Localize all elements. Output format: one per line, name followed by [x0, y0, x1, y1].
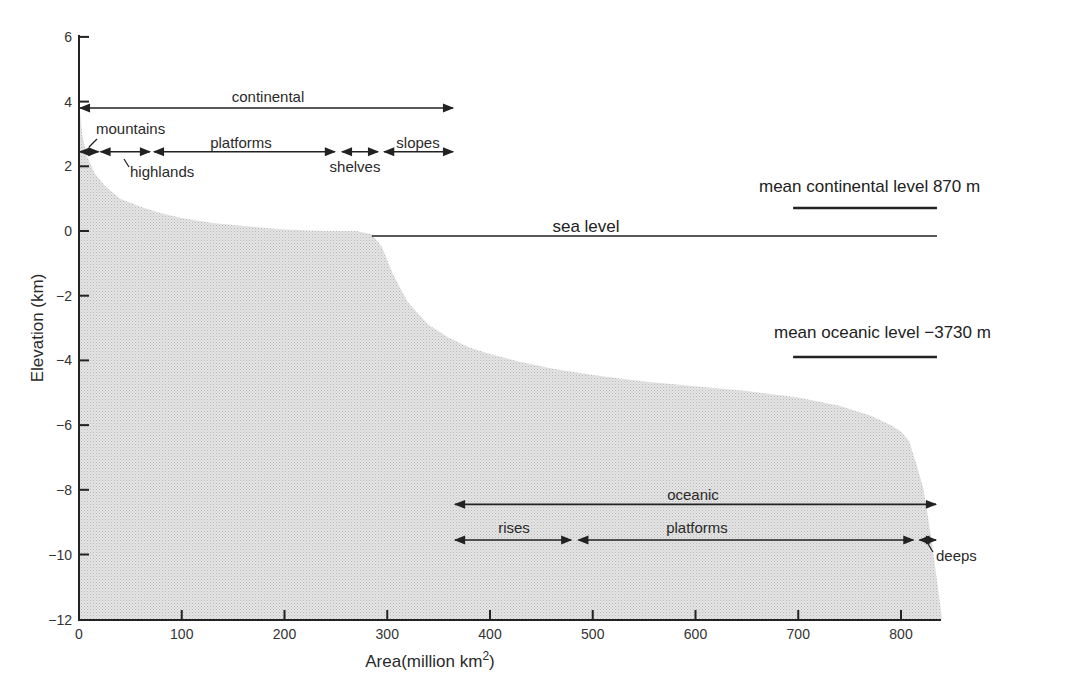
y-tick-label: −12 — [48, 612, 72, 628]
y-tick-label: −10 — [48, 547, 72, 563]
y-axis-title: Elevation (km) — [28, 274, 47, 383]
y-tick-label: −8 — [56, 482, 72, 498]
label-mountains: mountains — [96, 120, 165, 137]
label-oceanic: oceanic — [667, 486, 719, 503]
x-tick-label: 100 — [170, 626, 194, 642]
x-tick-label: 800 — [889, 626, 913, 642]
y-tick-label: −2 — [56, 288, 72, 304]
x-tick-label: 200 — [273, 626, 297, 642]
label-platforms-oceanic: platforms — [666, 519, 728, 536]
x-tick-label: 0 — [75, 626, 83, 642]
label-highlands: highlands — [130, 163, 194, 180]
x-tick-label: 400 — [478, 626, 502, 642]
label-platforms-continental: platforms — [210, 134, 272, 151]
x-axis-title: Area(million km2) — [365, 649, 495, 671]
x-tick-label: 300 — [376, 626, 400, 642]
y-tick-label: −4 — [56, 352, 72, 368]
x-tick-label: 600 — [684, 626, 708, 642]
highlands-pointer — [124, 159, 129, 167]
x-tick-label: 500 — [581, 626, 605, 642]
y-tick-label: 4 — [64, 94, 72, 110]
label-sea-level: sea level — [552, 217, 619, 236]
x-tick-label: 700 — [787, 626, 811, 642]
label-rises: rises — [498, 519, 530, 536]
label-mean-oceanic-level: mean oceanic level −3730 m — [774, 323, 991, 342]
label-deeps: deeps — [936, 547, 977, 564]
y-tick-label: 0 — [64, 223, 72, 239]
label-continental: continental — [232, 88, 305, 105]
y-tick-label: 2 — [64, 158, 72, 174]
label-slopes: slopes — [396, 134, 439, 151]
hypsometric-chart: 6420−2−4−6−8−10−12 010020030040050060070… — [0, 0, 1086, 699]
y-tick-label: 6 — [64, 29, 72, 45]
y-tick-label: −6 — [56, 417, 72, 433]
label-mean-continental-level: mean continental level 870 m — [759, 177, 980, 196]
mountains-pointer — [89, 139, 97, 147]
label-shelves: shelves — [330, 158, 381, 175]
